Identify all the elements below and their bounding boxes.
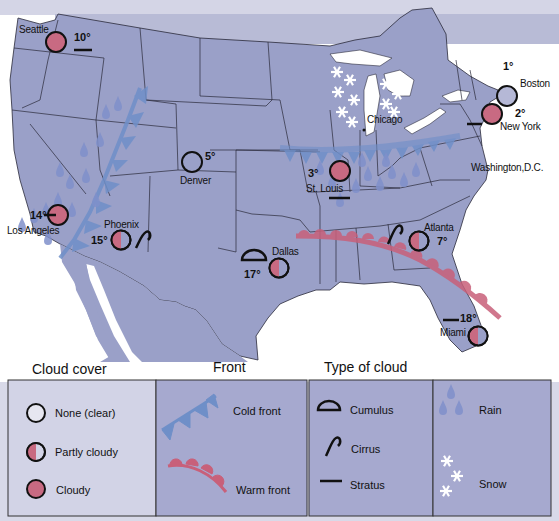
city-label-boston: Boston xyxy=(520,78,550,89)
legend-label-clear: None (clear) xyxy=(55,407,116,419)
temp-los-angeles: 14° xyxy=(30,209,47,221)
temp-dallas: 17° xyxy=(244,268,261,280)
legend-title-front: Front xyxy=(213,359,246,375)
temp-boston: 1° xyxy=(503,60,514,72)
temp-new-york: 2° xyxy=(515,107,526,119)
legend-precip-panel xyxy=(433,380,551,516)
legend-label-partly-cloudy: Partly cloudy xyxy=(55,446,118,458)
city-label-denver: Denver xyxy=(180,175,211,186)
city-denver-clear-circle-icon xyxy=(182,152,202,172)
legend-label-stratus: Stratus xyxy=(350,479,385,491)
clear-circle-icon xyxy=(27,404,45,422)
canada-region xyxy=(0,0,559,15)
city-label-chicago: Chicago xyxy=(367,114,402,125)
city-label-atlanta: Atlanta xyxy=(424,222,454,233)
city-label-washington: Washington,D.C. xyxy=(471,162,543,173)
legend-label-cloudy: Cloudy xyxy=(56,484,90,496)
weather-map xyxy=(0,0,559,521)
temp-seattle: 10° xyxy=(74,31,91,43)
legend-label-cold-front: Cold front xyxy=(233,405,281,417)
temp-miami: 18° xyxy=(460,312,477,324)
city-label-los-angeles: Los Angeles xyxy=(7,225,59,236)
city-label-st-louis: St. Louis xyxy=(306,183,343,194)
legend-label-rain: Rain xyxy=(479,404,502,416)
legend-label-cirrus: Cirrus xyxy=(351,443,380,455)
city-label-miami: Miami xyxy=(440,327,466,338)
legend-title-type-of-cloud: Type of cloud xyxy=(324,359,407,375)
city-label-new-york: New York xyxy=(500,121,541,132)
legend-label-warm-front: Warm front xyxy=(236,484,290,496)
legend-label-snow: Snow xyxy=(479,478,507,490)
city-label-phoenix: Phoenix xyxy=(104,219,139,230)
cloudy-circle-icon xyxy=(27,480,45,498)
temp-st-louis: 3° xyxy=(308,167,319,179)
city-label-seattle: Seattle xyxy=(19,24,49,35)
cloudy-circle-icon xyxy=(482,104,502,124)
temp-phoenix: 15° xyxy=(91,234,108,246)
cloudy-circle-icon xyxy=(46,32,66,52)
city-boston-clear-circle-icon xyxy=(497,86,517,106)
temp-atlanta: 7° xyxy=(437,235,448,247)
legend-label-cumulus: Cumulus xyxy=(350,404,393,416)
city-label-dallas: Dallas xyxy=(272,246,299,257)
legend-title-cloud-cover: Cloud cover xyxy=(32,361,107,377)
temp-denver: 5° xyxy=(205,150,216,162)
cloudy-circle-icon xyxy=(330,161,350,181)
